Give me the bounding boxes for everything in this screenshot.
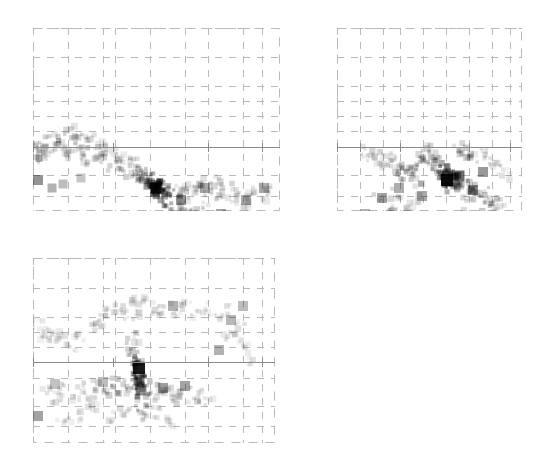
density-pixel xyxy=(93,396,97,400)
density-pixel xyxy=(74,134,79,139)
density-pixel xyxy=(172,188,175,191)
density-pixel xyxy=(92,328,98,334)
detection-square xyxy=(417,191,427,201)
density-pixel xyxy=(91,132,96,137)
density-pixel xyxy=(220,313,225,318)
density-pixel xyxy=(189,300,192,303)
density-pixel xyxy=(140,410,145,415)
density-pixel xyxy=(389,164,393,168)
density-pixel xyxy=(229,181,235,187)
density-pixel xyxy=(487,186,490,189)
detection-square xyxy=(98,377,108,387)
density-pixel xyxy=(195,309,199,313)
density-pixel xyxy=(200,175,207,182)
panel-top-right-plot xyxy=(337,28,522,211)
density-pixel xyxy=(127,353,131,357)
detection-square xyxy=(48,184,57,193)
density-pixel xyxy=(64,418,69,423)
density-pixel xyxy=(506,177,512,183)
density-pixel xyxy=(120,310,126,316)
density-pixel xyxy=(147,379,152,384)
density-pixel xyxy=(418,180,424,186)
density-pixel xyxy=(264,198,270,204)
detection-square xyxy=(377,193,387,203)
density-pixel xyxy=(141,294,147,300)
density-pixel xyxy=(95,401,101,407)
density-pixel xyxy=(132,354,137,359)
density-pixel xyxy=(460,186,464,190)
density-pixel xyxy=(242,322,246,326)
density-pixel xyxy=(466,179,473,186)
density-pixel xyxy=(395,169,401,175)
density-pixel xyxy=(70,394,76,400)
density-pixel xyxy=(170,207,174,211)
density-pixel xyxy=(111,385,115,389)
density-pixel xyxy=(234,201,239,206)
detection-square xyxy=(241,195,251,205)
panel-frame xyxy=(34,259,275,443)
density-pixel xyxy=(430,167,434,171)
density-pixel xyxy=(251,185,255,189)
density-pixel xyxy=(33,318,35,324)
density-pixel xyxy=(120,151,127,158)
density-pixel xyxy=(366,159,369,162)
density-pixel xyxy=(125,341,129,345)
density-pixel xyxy=(235,325,242,332)
density-pixel xyxy=(153,394,160,401)
grid-lines xyxy=(337,28,522,211)
density-pixel xyxy=(76,145,82,151)
density-pixel xyxy=(125,336,130,341)
density-pixel xyxy=(63,133,66,136)
density-pixel xyxy=(81,153,86,158)
density-pixel xyxy=(226,334,231,339)
density-pixel xyxy=(195,395,200,400)
density-pixel xyxy=(476,160,479,163)
density-pixel xyxy=(106,419,111,424)
detection-square xyxy=(214,345,224,355)
density-pixel xyxy=(71,123,78,130)
density-pixel xyxy=(427,162,431,166)
detection-square xyxy=(136,385,147,396)
density-pixel xyxy=(208,314,211,317)
detection-square xyxy=(478,167,488,177)
detection-square xyxy=(158,383,168,393)
density-pixel xyxy=(408,166,413,171)
density-pixel xyxy=(99,144,104,149)
density-pixel xyxy=(121,412,126,417)
detection-square xyxy=(50,379,60,389)
density-pixel xyxy=(42,326,49,333)
detection-square xyxy=(168,301,178,311)
density-pixel xyxy=(479,190,483,194)
density-pixel xyxy=(377,161,383,167)
density-pixel xyxy=(133,330,139,336)
density-pixel xyxy=(467,151,474,158)
density-pixel xyxy=(55,418,60,423)
panel-bottom-left-plot xyxy=(33,258,275,443)
density-pixel xyxy=(144,413,149,418)
density-pixel xyxy=(131,317,135,321)
density-pixel xyxy=(54,143,57,146)
density-pixel xyxy=(484,155,487,158)
density-pixel xyxy=(53,390,57,394)
density-pixel xyxy=(393,158,396,161)
density-pixel xyxy=(491,210,496,211)
density-pixel xyxy=(201,201,205,205)
density-pixel xyxy=(75,384,80,389)
detection-square xyxy=(77,174,86,183)
density-pixel xyxy=(438,164,442,168)
detection-square xyxy=(389,208,398,212)
detection-square xyxy=(59,180,68,189)
density-pixel xyxy=(134,397,140,403)
density-pixel xyxy=(241,343,246,348)
density-pixel xyxy=(217,176,221,180)
density-pixel xyxy=(127,158,133,164)
density-pixel xyxy=(119,159,122,162)
detection-square xyxy=(133,362,145,374)
density-pixel xyxy=(40,318,46,324)
density-pixel xyxy=(117,405,124,412)
density-pixel xyxy=(85,403,92,410)
detection-square xyxy=(134,375,145,386)
density-pixel xyxy=(84,137,90,143)
density-pixel xyxy=(127,407,132,412)
density-pixel xyxy=(462,210,466,211)
